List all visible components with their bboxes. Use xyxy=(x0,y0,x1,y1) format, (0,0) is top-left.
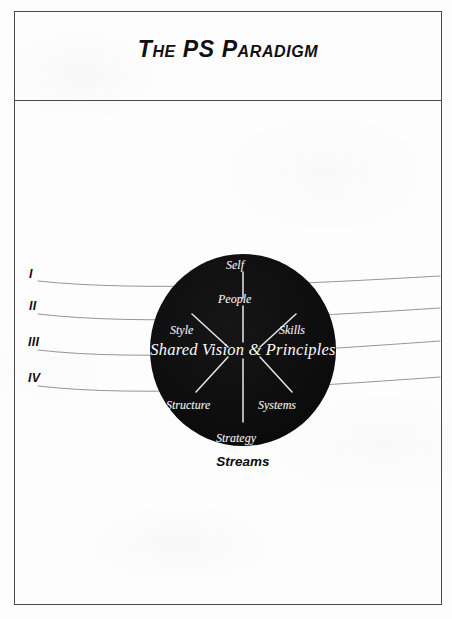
node-label-style: Style xyxy=(170,323,193,338)
page-title: The PS Paradigm xyxy=(14,36,442,63)
stream-numeral-iii: III xyxy=(28,335,39,349)
node-label-strategy: Strategy xyxy=(216,431,256,446)
stream-numeral-ii: II xyxy=(29,299,37,313)
node-label-skills: Skills xyxy=(279,323,305,338)
stream-numeral-i: I xyxy=(29,267,33,281)
node-label-systems: Systems xyxy=(258,398,296,413)
page-canvas: The PS Paradigm I II III IV Self Pe xyxy=(0,0,452,619)
node-label-people: People xyxy=(218,292,251,307)
node-label-self: Self xyxy=(226,258,244,273)
header-divider xyxy=(14,100,442,101)
center-label: Shared Vision & Principles xyxy=(150,340,336,360)
stream-numeral-iv: IV xyxy=(28,371,40,385)
streams-caption: Streams xyxy=(150,454,336,469)
node-label-structure: Structure xyxy=(166,398,210,413)
